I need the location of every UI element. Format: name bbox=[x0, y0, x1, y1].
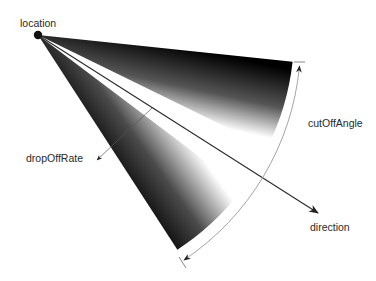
location-dot bbox=[34, 31, 42, 39]
cutoff-angle-label: cutOffAngle bbox=[308, 118, 363, 129]
location-label: location bbox=[20, 18, 56, 29]
dropoff-rate-label: dropOffRate bbox=[26, 153, 83, 164]
direction-label: direction bbox=[310, 222, 350, 233]
spotlight-diagram bbox=[0, 0, 376, 281]
cutoff-tick-bottom bbox=[179, 257, 186, 268]
